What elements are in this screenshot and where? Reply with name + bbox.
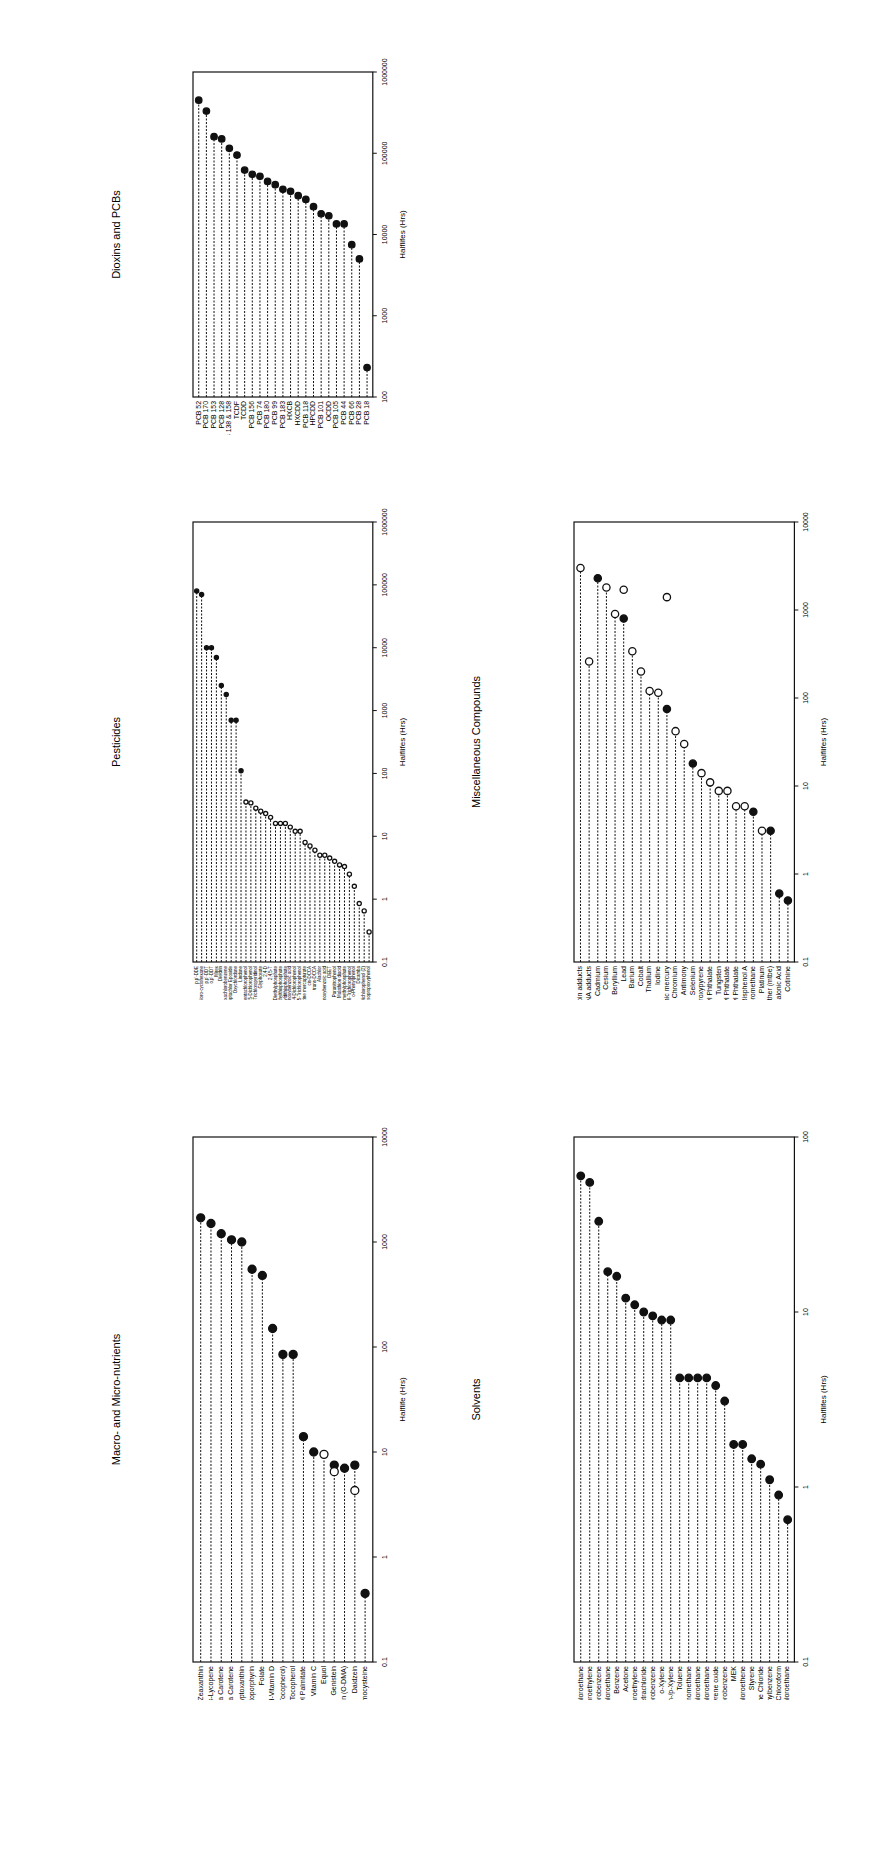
data-point [318,211,324,217]
data-point [226,145,232,151]
category-label: PCB 66 [348,401,355,425]
tick-label: 100 [802,692,809,704]
data-point-secondary [620,586,627,593]
data-point [594,575,601,582]
category-label: Acetone [622,1666,629,1692]
category-label: Bromodichloromethane [749,966,756,1000]
category-label: Antimony [680,966,688,996]
data-point [328,856,332,860]
category-label: Trans-Lycopene [207,1666,215,1700]
data-point [611,610,618,617]
data-point [595,1217,603,1225]
data-point [667,1316,675,1324]
axis-label: Halflifes (Hrs) [819,1375,828,1424]
category-label: Folate [258,1666,265,1686]
category-label: PCB 28 [355,401,362,425]
category-label: 1,4-Dichlorobenzene [595,1666,602,1700]
category-label: PCB 156 [248,401,255,429]
category-label: Cadmium [594,966,601,996]
category-label: Hexachloroethane [577,1666,584,1700]
data-point [685,1374,693,1382]
category-label: PCB 153 [210,401,217,429]
data-point [767,827,774,834]
data-point [341,221,347,227]
dioxins-chart: Dioxins and PCBs100100010000100000100000… [100,40,410,435]
data-point [364,364,370,370]
tick-label: 10 [381,1448,388,1456]
category-label: Platinum [758,966,765,993]
category-label: Chromium [671,966,678,998]
data-point [207,1220,215,1228]
misc-chart: Miscellaneous Compounds0.111010010001000… [460,490,840,1000]
data-point [622,1294,630,1302]
tick-label: 1000 [381,703,388,719]
data-point [258,1271,266,1279]
data-point [229,718,233,722]
data-point-secondary [351,1486,359,1494]
category-label: Bisphenol A [741,966,749,1000]
data-point [264,811,268,815]
tick-label: 0.1 [381,957,388,967]
data-point [758,827,765,834]
tick-label: 100 [381,1341,388,1353]
data-point [351,1461,359,1469]
category-label: mono-benzyl Phthalate [732,966,740,1000]
data-point [333,221,339,227]
category-label: HXCB [286,401,293,421]
tick-label: 1000000 [381,58,388,85]
category-label: 1,1,2-Trichloroethane [694,1666,701,1700]
category-label: HXCDD [294,401,301,425]
category-label: Vitamin C [310,1666,317,1696]
data-point [224,692,228,696]
category-label: Vitamin E (Alpha Tocopherol) [279,1666,287,1700]
tick-label: 1000 [381,1234,388,1250]
data-point [204,646,208,650]
data-point [706,779,713,786]
data-point [750,808,757,815]
tick-label: 10 [802,1308,809,1316]
data-point [295,193,301,199]
category-label: Homocysteine [361,1666,369,1700]
data-point [586,1179,594,1187]
category-label: 1-hydroxypyrene [697,966,705,1000]
chart-title: Solvents [470,1378,482,1421]
data-point [203,108,209,114]
data-point [214,655,218,659]
data-point [655,689,662,696]
data-point [333,859,337,863]
tick-label: 10 [802,782,809,790]
data-point [303,196,309,202]
data-point [288,825,292,829]
data-point [724,787,731,794]
data-point [228,1236,236,1244]
data-point [357,902,361,906]
data-point [741,803,748,810]
category-label: Styrene oxide [712,1666,720,1700]
data-point [712,1382,720,1390]
data-point [283,821,287,825]
data-point [238,1238,246,1246]
data-point [280,186,286,192]
category-label: PCB 74 [256,401,263,425]
data-point [217,1230,225,1238]
category-label: 1,1-Dichloroethene [739,1666,746,1700]
data-point [721,1397,729,1405]
data-point [241,167,247,173]
data-point [672,728,679,735]
category-label: PCB 18 [363,401,370,425]
category-label: PCB 128 [218,401,225,429]
data-point [775,1491,783,1499]
data-point-secondary [330,1468,338,1476]
data-point [303,840,307,844]
data-point [248,1265,256,1273]
category-label: PCB 118 [302,401,309,428]
data-point [272,181,278,187]
data-point [264,178,270,184]
data-point [577,1172,585,1180]
category-label: Cobalt [637,966,644,986]
data-point [219,683,223,687]
category-label: 1,3-Dichlorobenzene [649,1666,656,1700]
data-point [239,769,243,773]
tick-label: 100 [381,391,388,403]
tick-label: 1000000 [381,508,388,535]
